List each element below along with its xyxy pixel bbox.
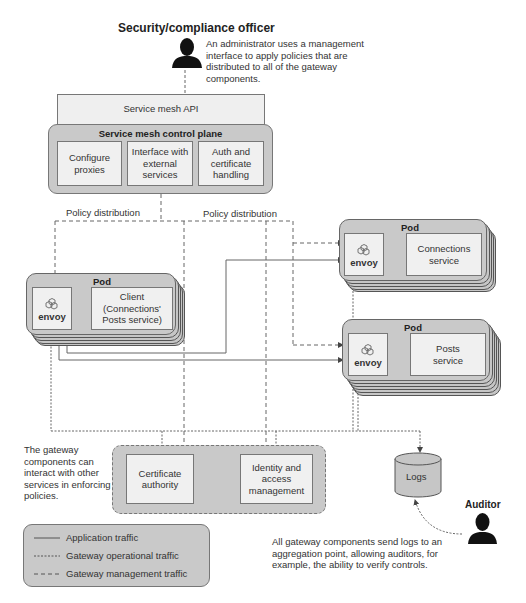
- external-services-box: Interface withexternalservices: [127, 141, 193, 186]
- identity-access-box: Identity andaccessmanagement: [240, 454, 313, 504]
- legend-item-management: Gateway management traffic: [34, 568, 187, 580]
- pod-label: Pod: [401, 222, 419, 233]
- officer-title: Security/compliance officer: [118, 21, 275, 35]
- envoy-proxy: envoy: [344, 233, 384, 276]
- control-plane-title: Service mesh control plane: [49, 128, 272, 139]
- dotted-line-icon: [34, 554, 60, 558]
- posts-pod: Pod envoy Postsservice: [342, 319, 507, 409]
- auth-certificate-box: Auth andcertificatehandling: [198, 141, 264, 186]
- policy-distribution-label-1: Policy distribution: [66, 207, 140, 219]
- dashed-line-icon: [34, 572, 60, 576]
- posts-service-box: Postsservice: [410, 333, 486, 376]
- legend: Application traffic Gateway operational …: [23, 524, 210, 587]
- legend-item-operational: Gateway operational traffic: [34, 550, 179, 562]
- connections-pod: Pod envoy Connectionsservice: [339, 219, 499, 304]
- envoy-hexagon-icon: [360, 342, 376, 356]
- envoy-proxy: envoy: [348, 333, 388, 376]
- envoy-proxy: envoy: [32, 287, 72, 330]
- pod-label: Pod: [93, 276, 111, 287]
- gateway-note: The gateway components can interact with…: [24, 444, 111, 502]
- envoy-hexagon-icon: [44, 296, 60, 310]
- configure-proxies-box: Configureproxies: [57, 141, 122, 186]
- legend-item-application: Application traffic: [34, 532, 138, 544]
- auditor-title: Auditor: [465, 499, 501, 510]
- client-pod: Pod envoy Client(Connections'Posts servi…: [26, 273, 186, 358]
- auditor-person-icon: [467, 512, 498, 544]
- connections-service-box: Connectionsservice: [406, 233, 482, 276]
- envoy-hexagon-icon: [356, 242, 372, 256]
- solid-line-icon: [34, 536, 60, 540]
- control-plane-panel: Service mesh control plane Configureprox…: [48, 124, 273, 194]
- certificate-authority-box: Certificateauthority: [126, 454, 194, 504]
- pod-label: Pod: [404, 322, 422, 333]
- client-service-box: Client(Connections'Posts service): [91, 287, 173, 330]
- policy-distribution-label-2: Policy distribution: [203, 208, 277, 220]
- external-services-panel: Certificateauthority Identity andaccessm…: [112, 445, 326, 514]
- auditor-description: All gateway components send logs to an a…: [272, 536, 442, 571]
- logs-label: Logs: [406, 471, 427, 483]
- officer-person-icon: [171, 37, 203, 68]
- api-label: Service mesh API: [124, 103, 199, 115]
- officer-description: An administrator uses a management inter…: [206, 38, 364, 84]
